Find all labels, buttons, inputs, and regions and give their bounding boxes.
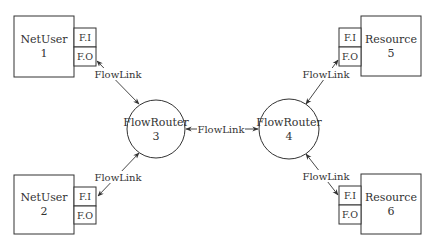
resource-5-number: 5 [388,47,395,60]
netuser-1-number: 1 [41,47,48,60]
link-router3-router4[interactable]: FlowLink [186,123,258,135]
resource-6-port-fi-label: F.I [344,190,356,201]
flowrouter-4-node[interactable]: FlowRouter 4 [256,99,322,159]
netuser-1-port-fo-label: F.O [77,51,93,62]
flowrouter-3-circle [127,100,185,158]
resource-5-node[interactable]: Resource 5 F.I F.O [339,16,421,76]
netuser-2-number: 2 [41,205,48,218]
link-label: FlowLink [302,69,350,80]
resource-6-port-fo-label: F.O [342,209,358,220]
resource-5-box [361,16,421,76]
resource-6-name: Resource [365,191,417,204]
flowrouter-3-name: FlowRouter [123,116,189,129]
link-netuser1-router3[interactable]: FlowLink [94,61,142,104]
netuser-1-node[interactable]: NetUser 1 F.I F.O [14,16,96,77]
netuser-2-port-fo-label: F.O [77,210,93,221]
netuser-2-port-fi-label: F.I [79,191,91,202]
resource-5-port-fi-label: F.I [344,32,356,43]
flow-diagram: NetUser 1 F.I F.O NetUser 2 F.I F.O Reso… [0,0,436,246]
link-label: FlowLink [94,69,142,80]
link-router3-netuser2[interactable]: FlowLink [94,153,142,196]
resource-6-box [361,174,421,234]
flowrouter-3-node[interactable]: FlowRouter 3 [123,100,189,158]
flowrouter-3-number: 3 [153,130,160,143]
netuser-2-node[interactable]: NetUser 2 F.I F.O [14,175,96,234]
resource-5-port-fo-label: F.O [342,51,358,62]
link-label: FlowLink [94,172,142,183]
netuser-2-name: NetUser [20,191,68,204]
resource-5-name: Resource [365,33,417,46]
resource-6-number: 6 [388,205,395,218]
flowrouter-4-name: FlowRouter [256,116,322,129]
flowrouter-4-circle [259,99,319,159]
double-arrow-icon [97,61,139,104]
netuser-1-port-fi-label: F.I [79,32,91,43]
resource-6-node[interactable]: Resource 6 F.I F.O [339,174,421,234]
link-label: FlowLink [302,171,350,182]
double-arrow-icon [306,60,338,104]
flowrouter-4-number: 4 [286,130,293,143]
netuser-1-name: NetUser [20,33,68,46]
link-label: FlowLink [197,124,245,135]
link-router4-resource5[interactable]: FlowLink [302,60,350,104]
